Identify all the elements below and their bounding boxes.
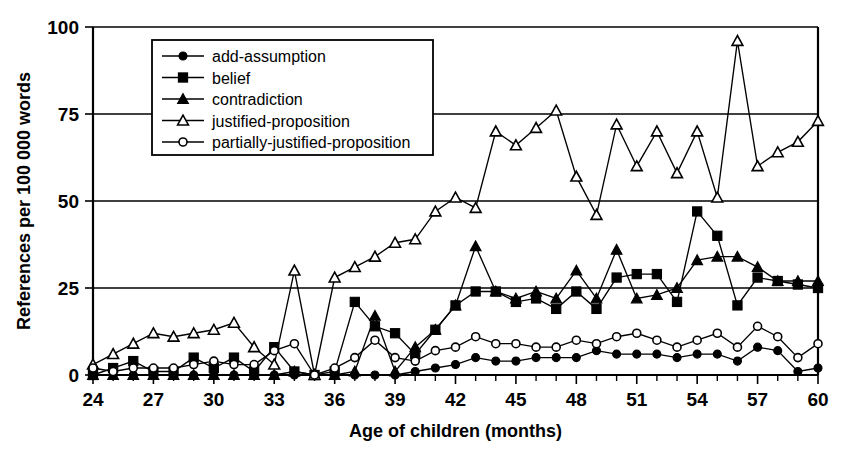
data-point	[450, 192, 461, 202]
data-point	[592, 340, 600, 348]
data-point	[371, 371, 379, 379]
data-point	[371, 336, 379, 344]
y-tick-label: 0	[68, 365, 79, 386]
data-point	[472, 333, 480, 341]
data-point	[390, 329, 399, 338]
data-point	[311, 371, 319, 379]
x-tick-label: 60	[807, 389, 828, 410]
data-point	[713, 329, 721, 337]
data-point	[431, 347, 439, 355]
data-point	[713, 231, 722, 240]
legend-marker-filled-circle-icon	[179, 52, 187, 60]
data-point	[391, 354, 399, 362]
data-point	[752, 262, 763, 272]
data-point	[430, 206, 441, 216]
data-point	[653, 350, 661, 358]
x-tick-label: 54	[687, 389, 709, 410]
chart-container: 0255075100 24273033363942454851545760 Ag…	[0, 0, 850, 455]
data-point	[431, 364, 439, 372]
data-point	[452, 361, 460, 369]
data-point	[672, 297, 681, 306]
data-point	[148, 328, 159, 338]
data-point	[733, 301, 742, 310]
data-point	[713, 350, 721, 358]
data-point	[572, 287, 581, 296]
legend-item-label: partially-justified-proposition	[212, 134, 410, 151]
data-point	[490, 126, 501, 136]
data-point	[329, 272, 340, 282]
data-point	[349, 366, 360, 376]
data-point	[732, 36, 743, 46]
line-chart: 0255075100 24273033363942454851545760 Ag…	[0, 0, 850, 455]
data-point	[652, 269, 661, 278]
x-tick-label: 39	[385, 389, 406, 410]
data-point	[733, 357, 741, 365]
data-point	[633, 329, 641, 337]
data-point	[611, 119, 622, 129]
x-axis-title: Age of children (months)	[349, 421, 562, 441]
data-point	[814, 364, 822, 372]
data-point	[230, 361, 238, 369]
data-point	[552, 304, 561, 313]
x-tick-label: 36	[324, 389, 345, 410]
data-point	[410, 234, 421, 244]
data-point	[129, 364, 137, 372]
data-point	[813, 116, 824, 126]
data-point	[551, 293, 562, 303]
data-point	[571, 171, 582, 181]
data-point	[208, 324, 219, 334]
data-point	[472, 354, 480, 362]
data-point	[693, 207, 702, 216]
data-point	[351, 354, 359, 362]
data-point	[471, 287, 480, 296]
data-point	[672, 168, 683, 178]
y-tick-label: 100	[47, 17, 79, 38]
data-point	[552, 343, 560, 351]
data-point	[754, 343, 762, 351]
data-point	[753, 273, 762, 282]
x-tick-label: 27	[143, 389, 164, 410]
x-tick-label: 30	[203, 389, 224, 410]
data-point	[109, 368, 117, 376]
legend-marker-open-circle-icon	[179, 138, 187, 146]
data-point	[229, 317, 240, 327]
data-point	[572, 336, 580, 344]
legend-item-label: justified-proposition	[211, 113, 350, 130]
data-point	[210, 357, 218, 365]
data-point	[108, 349, 119, 359]
data-point	[651, 290, 662, 300]
data-point	[754, 322, 762, 330]
data-point	[772, 147, 783, 157]
series-partially-justified-proposition	[89, 322, 822, 379]
x-tick-label: 48	[566, 389, 587, 410]
data-point	[532, 343, 540, 351]
data-point	[733, 343, 741, 351]
data-point	[128, 338, 139, 348]
data-point	[470, 241, 481, 251]
data-point	[673, 354, 681, 362]
x-tick-label: 57	[747, 389, 768, 410]
data-point	[571, 265, 582, 275]
data-point	[532, 354, 540, 362]
series-line	[93, 246, 818, 375]
data-point	[349, 262, 360, 272]
data-point	[591, 210, 602, 220]
data-point	[270, 347, 278, 355]
data-point	[572, 354, 580, 362]
data-point	[794, 354, 802, 362]
data-point	[370, 310, 381, 320]
data-point	[613, 350, 621, 358]
y-tick-label: 50	[58, 191, 79, 212]
data-point	[693, 350, 701, 358]
data-point	[411, 368, 419, 376]
data-point	[512, 340, 520, 348]
y-tick-label: 25	[58, 278, 80, 299]
data-point	[331, 364, 339, 372]
data-point	[170, 364, 178, 372]
data-point	[651, 126, 662, 136]
data-point	[712, 192, 723, 202]
data-point	[492, 340, 500, 348]
data-point	[592, 304, 601, 313]
legend-item-label: belief	[212, 70, 251, 87]
x-tick-label: 51	[626, 389, 648, 410]
